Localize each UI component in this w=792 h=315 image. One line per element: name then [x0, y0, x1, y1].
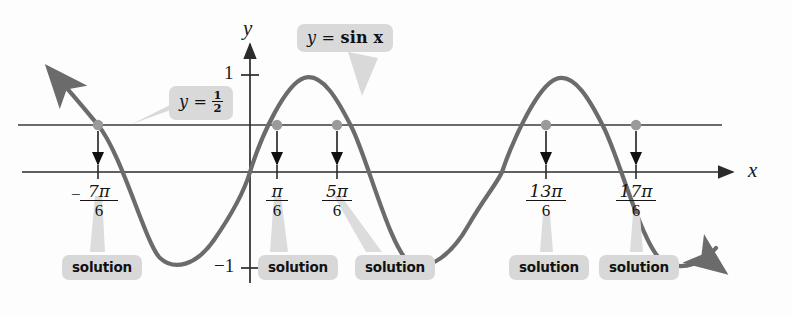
callout-sine-equation: y = sin x — [297, 24, 393, 52]
y-tick-label-minus-1: −1 — [214, 255, 234, 277]
x-tick-numerator-13pi-6: 13π — [526, 183, 566, 201]
x-tick-denominator-pi-6: 6 — [266, 201, 288, 219]
half-callout-lhs: y — [179, 92, 188, 111]
solution-chip-5pi-6: solution — [355, 255, 435, 280]
intersection-dot-pi-6 — [272, 120, 282, 130]
intersection-dot-neg-7pi-6 — [93, 120, 103, 130]
intersection-dot-17pi-6 — [631, 120, 641, 130]
solution-chip-pi-6: solution — [258, 255, 338, 280]
x-tick-label-pi-6: π 6 — [266, 183, 288, 220]
x-tick-label-17pi-6: 17π 6 — [616, 183, 656, 220]
sine-callout-lhs: y — [307, 28, 316, 47]
sine-equation-figure: y x 1 −1 − 7π 6 π 6 5π 6 13π 6 17π 6 y =… — [0, 0, 792, 315]
curve-arrow-left — [50, 70, 62, 84]
x-tick-sign-neg-7pi-6: − — [71, 186, 81, 203]
intersection-dot-13pi-6 — [541, 120, 551, 130]
y-axis-label: y — [243, 16, 252, 41]
x-tick-label-13pi-6: 13π 6 — [526, 183, 566, 220]
half-callout-fraction: 1 2 — [212, 89, 222, 114]
y-tick-label-1: 1 — [224, 62, 234, 84]
sine-callout-eq: = — [322, 28, 336, 47]
x-tick-label-neg-7pi-6: − 7π 6 — [80, 183, 118, 220]
x-axis-label: x — [748, 158, 757, 183]
callout-half-equation: y = 1 2 — [169, 86, 233, 120]
x-tick-denominator-13pi-6: 6 — [526, 201, 566, 219]
curve-arrow-right — [706, 258, 722, 270]
solution-chip-neg-7pi-6: solution — [62, 255, 142, 280]
sine-callout-rhs: sin x — [340, 28, 383, 47]
x-tick-label-5pi-6: 5π 6 — [322, 183, 352, 220]
solution-chip-17pi-6: solution — [599, 255, 679, 280]
half-callout-denominator: 2 — [212, 102, 222, 114]
intersection-dot-5pi-6 — [332, 120, 342, 130]
solution-chip-13pi-6: solution — [509, 255, 589, 280]
x-tick-numerator-17pi-6: 17π — [616, 183, 656, 201]
leader-sine-label — [348, 52, 378, 96]
x-tick-numerator-5pi-6: 5π — [322, 183, 352, 201]
sine-curve — [52, 72, 716, 266]
x-tick-denominator-5pi-6: 6 — [322, 201, 352, 219]
x-tick-denominator-neg-7pi-6: 6 — [80, 201, 118, 219]
half-callout-eq: = — [194, 92, 208, 111]
x-tick-numerator-pi-6: π — [266, 183, 288, 201]
x-tick-denominator-17pi-6: 6 — [616, 201, 656, 219]
x-tick-numerator-neg-7pi-6: 7π — [80, 183, 118, 201]
